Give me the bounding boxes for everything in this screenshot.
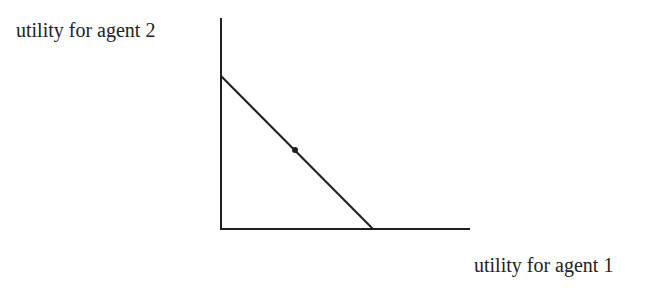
outcome-point xyxy=(292,147,298,153)
frontier-line xyxy=(221,76,373,229)
utility-diagram xyxy=(0,0,652,295)
